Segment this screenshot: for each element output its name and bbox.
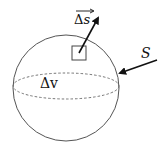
volume-element-label: Δv bbox=[40, 76, 58, 90]
delta-symbol: Δ bbox=[74, 12, 83, 27]
surface-label: S bbox=[141, 46, 151, 60]
equator-dashed-ellipse bbox=[13, 73, 119, 99]
surface-element-vector-label: Δs bbox=[74, 13, 90, 26]
sphere-outline bbox=[13, 35, 119, 141]
surface-pointer-arrow bbox=[120, 60, 157, 73]
s-variable: s bbox=[83, 12, 90, 27]
